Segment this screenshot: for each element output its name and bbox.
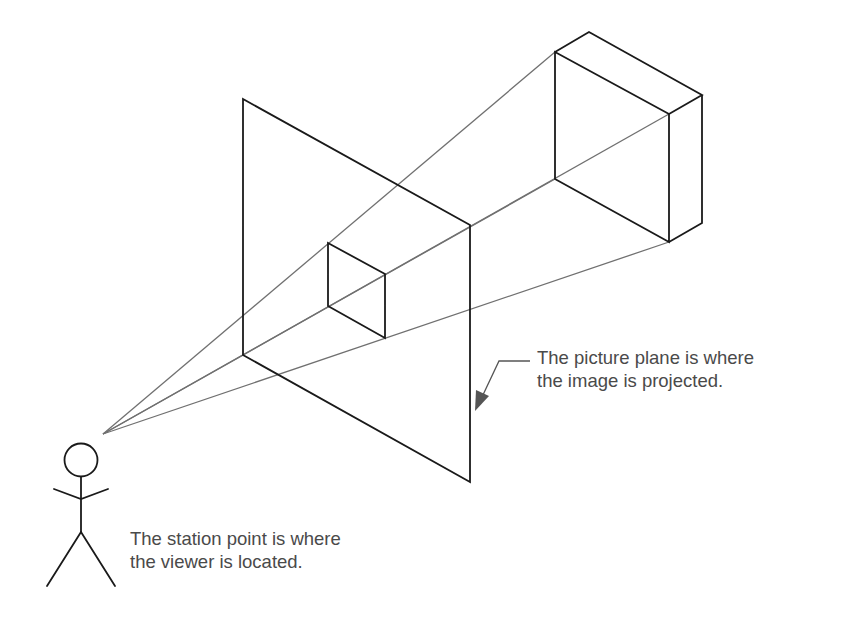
leader-line [482,361,530,397]
picture-plane-leader [475,361,530,411]
station-point-label-line2: the viewer is located. [130,551,341,574]
object-box-top-face [555,32,702,114]
diagram-canvas [0,0,859,630]
viewer-stick-figure [47,444,115,587]
viewer-right-leg [81,532,115,586]
viewer-left-leg [47,532,81,586]
station-point-label-line1: The station point is where [130,528,341,551]
picture-plane-label-line2: the image is projected. [537,370,754,393]
perspective-diagram: The picture plane is where the image is … [0,0,859,630]
object-box-side-face [669,95,702,242]
viewer-head [65,444,98,477]
picture-plane-label-line1: The picture plane is where [537,347,754,370]
station-point-label: The station point is where the viewer is… [130,528,341,573]
object-box-front-face [555,52,669,242]
arrow-head-icon [475,390,489,411]
projection-line-bottom-right [103,242,669,434]
picture-plane-label: The picture plane is where the image is … [537,347,754,392]
